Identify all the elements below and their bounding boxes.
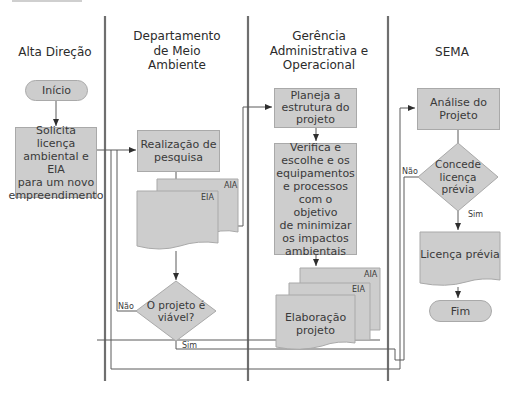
process-planeja: Planeja a estrutura do projeto: [274, 88, 357, 128]
node-line: Elaboração: [285, 311, 346, 324]
lane-title-gerencia: Gerência Administrativa e Operacional: [252, 29, 386, 73]
node-line: Verifica e: [290, 141, 341, 154]
doc-label-aia: AIA: [224, 181, 237, 190]
node-line: pesquisa: [154, 151, 203, 164]
node-line: para um novo: [18, 176, 95, 189]
node-line: Realização de: [140, 138, 216, 151]
end-node: Fim: [429, 300, 492, 322]
process-analise: Análise do Projeto: [417, 88, 500, 130]
end-label: Fim: [451, 305, 470, 318]
node-line: projeto: [296, 324, 335, 337]
start-node: Início: [25, 80, 88, 101]
docs-aia-eia: [137, 179, 238, 249]
node-line: empreendimento: [9, 189, 104, 202]
edge-label-sim: Sim: [182, 341, 197, 350]
lane-title-departamento: Departamento de Meio Ambiente: [112, 29, 242, 73]
edge-label-nao: Não: [118, 302, 134, 311]
lane-title-line: de Meio: [112, 44, 242, 59]
decision-concede-text: Concede licença prévia: [418, 157, 498, 197]
node-line: Análise do: [430, 96, 487, 109]
lane-title-alta-direcao: Alta Direção: [5, 45, 105, 60]
process-solicita: Solicita licença ambiental e EIA para um…: [15, 127, 97, 198]
lane-title-line: Gerência: [252, 29, 386, 44]
node-line: equipamentos: [276, 167, 355, 180]
node-line: Licença prévia: [420, 248, 500, 261]
lane-title-line: Ambiente: [112, 58, 242, 73]
node-line: Projeto: [439, 109, 477, 122]
node-line: os impactos: [282, 232, 348, 245]
edge-label-nao: Não: [402, 167, 418, 176]
lane-title-line: Departamento: [112, 29, 242, 44]
node-line: com o objetivo: [275, 193, 356, 219]
edge-label-sim: Sim: [468, 210, 483, 219]
start-label: Início: [42, 84, 71, 97]
node-line: viável?: [158, 311, 195, 323]
doc-label-aia: AIA: [364, 270, 377, 279]
doc-label-eia: EIA: [201, 193, 214, 202]
doc-elaboracao-text: Elaboração projeto: [276, 310, 355, 338]
doc-label-eia: EIA: [352, 285, 365, 294]
lane-title-line: Operacional: [252, 58, 386, 73]
node-line: O projeto é: [147, 299, 206, 311]
process-realizacao: Realização de pesquisa: [137, 130, 220, 172]
process-verifica: Verifica e escolhe e os equipamentos e p…: [274, 143, 357, 255]
node-line: ambiental e EIA: [16, 150, 96, 176]
node-line: licença: [440, 171, 477, 184]
node-line: escolhe e os: [281, 154, 349, 167]
lane-title-sema: SEMA: [392, 45, 512, 60]
node-line: Concede: [435, 158, 481, 171]
lane-title-line: Administrativa e: [252, 44, 386, 59]
node-line: e processos: [283, 180, 348, 193]
lane-title-line: SEMA: [392, 45, 512, 60]
node-line: projeto: [296, 114, 335, 126]
node-line: Solicita licença: [16, 124, 96, 150]
node-line: prévia: [442, 183, 475, 196]
doc-licenca-text: Licença prévia: [420, 246, 500, 262]
decision-viavel-text: O projeto é viável?: [136, 296, 216, 326]
lane-title-line: Alta Direção: [5, 45, 105, 60]
node-line: ambientais: [285, 245, 346, 258]
node-line: de minimizar: [280, 219, 352, 232]
